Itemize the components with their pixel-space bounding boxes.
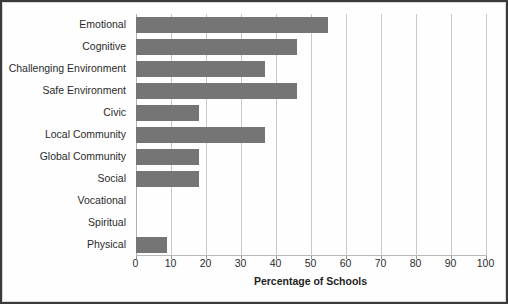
bar-row [136, 39, 486, 54]
plot-area [136, 14, 486, 256]
bar-cognitive [136, 39, 297, 54]
bar-civic [136, 105, 199, 120]
x-tick-label-60: 60 [340, 258, 352, 269]
x-tick-label-30: 30 [235, 258, 247, 269]
bar-row [136, 127, 486, 142]
gridline-100 [486, 14, 487, 256]
value-axis-tick-labels: 0102030405060708090100 [136, 258, 486, 274]
category-label-civic: Civic [103, 107, 126, 118]
bar-series [136, 14, 486, 256]
bar-row [136, 61, 486, 76]
category-label-challenging-environment: Challenging Environment [9, 63, 126, 74]
x-tick-label-100: 100 [477, 258, 495, 269]
category-label-safe-environment: Safe Environment [43, 85, 126, 96]
category-label-global-community: Global Community [40, 151, 126, 162]
category-label-vocational: Vocational [78, 195, 126, 206]
bar-row [136, 193, 486, 208]
bar-global-community [136, 149, 199, 164]
bar-emotional [136, 17, 329, 32]
x-tick-label-0: 0 [133, 258, 139, 269]
bar-physical [136, 237, 168, 252]
bar-row [136, 17, 486, 32]
x-tick-label-90: 90 [445, 258, 457, 269]
category-axis-labels: EmotionalCognitiveChallenging Environmen… [2, 14, 131, 256]
x-tick-label-80: 80 [410, 258, 422, 269]
bar-row [136, 83, 486, 98]
x-tick-label-10: 10 [165, 258, 177, 269]
bar-challenging-environment [136, 61, 266, 76]
bar-safe-environment [136, 83, 297, 98]
category-label-local-community: Local Community [45, 129, 126, 140]
bar-local-community [136, 127, 266, 142]
x-axis-title: Percentage of Schools [136, 276, 486, 287]
category-label-emotional: Emotional [79, 19, 126, 30]
bar-row [136, 237, 486, 252]
category-label-spiritual: Spiritual [88, 217, 126, 228]
x-tick-label-50: 50 [305, 258, 317, 269]
bar-row [136, 149, 486, 164]
value-axis-line [136, 255, 486, 256]
category-label-cognitive: Cognitive [82, 41, 126, 52]
category-label-social: Social [97, 173, 126, 184]
category-label-physical: Physical [87, 239, 126, 250]
x-tick-label-70: 70 [375, 258, 387, 269]
x-tick-label-20: 20 [200, 258, 212, 269]
bar-social [136, 171, 199, 186]
bar-row [136, 215, 486, 230]
bar-row [136, 171, 486, 186]
x-tick-label-40: 40 [270, 258, 282, 269]
chart-figure: EmotionalCognitiveChallenging Environmen… [0, 0, 508, 304]
bar-row [136, 105, 486, 120]
